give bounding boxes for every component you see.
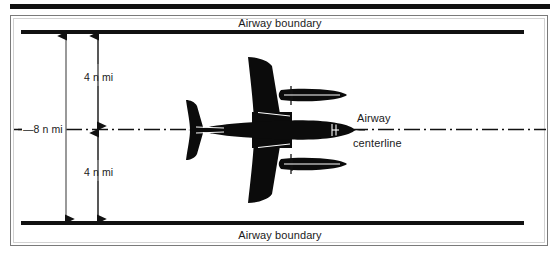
dimension-lower-label: 4 n mi: [84, 166, 113, 178]
airway-boundary-top-line: [21, 30, 524, 34]
airway-boundary-bottom-line: [21, 221, 524, 225]
airway-diagram-svg: [0, 0, 560, 258]
airway-boundary-top-label: Airway boundary: [0, 17, 560, 29]
dimension-total-label: —8 n mi: [22, 123, 64, 135]
airway-boundary-bottom-label: Airway boundary: [0, 229, 560, 241]
diagram-canvas: Airway boundary Airway boundary Airway c…: [0, 0, 560, 258]
airway-centerline-label-line2: centerline: [353, 137, 402, 149]
airway-centerline-label-line1: Airway: [357, 112, 391, 124]
dimension-upper-label: 4 n mi: [84, 71, 113, 83]
